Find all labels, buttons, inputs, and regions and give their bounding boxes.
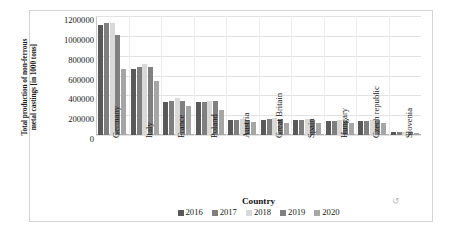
bar-2017-great-britain[interactable] — [267, 119, 272, 135]
bar-2017-spain[interactable] — [299, 120, 304, 135]
y-tick-label: 400000 — [68, 95, 94, 104]
bar-2017-germany[interactable] — [104, 23, 109, 135]
x-tick-cell: Italy — [129, 136, 162, 198]
bar-2020-germany[interactable] — [121, 69, 126, 135]
figure-container: Total production of non-ferrous metal ca… — [0, 0, 463, 250]
x-tick-label: Germany — [112, 106, 121, 138]
bar-2020-spain[interactable] — [316, 123, 321, 135]
y-tick-label: 200000 — [68, 115, 94, 124]
bar-2020-slovenia[interactable] — [414, 133, 419, 135]
bar-2016-czech-republic[interactable] — [358, 121, 363, 135]
x-tick-cell: Austria — [226, 136, 259, 198]
x-tick-cell: France — [161, 136, 194, 198]
x-tick-label: Slovenia — [405, 108, 414, 138]
y-tick-label: 1200000 — [64, 16, 94, 25]
legend-item-2019[interactable]: 2019 — [280, 208, 305, 217]
legend-label: 2016 — [186, 208, 203, 217]
x-tick-label: Hungary — [340, 108, 349, 138]
bar-2017-italy[interactable] — [137, 67, 142, 135]
x-tick-label: Poland — [210, 114, 219, 138]
x-tick-label: Great Britain — [275, 93, 284, 138]
x-axis-tick-labels: GermanyItalyFrancePolandAustriaGreat Bri… — [96, 136, 421, 198]
y-tick-label: 1000000 — [64, 36, 94, 45]
bar-2020-italy[interactable] — [154, 81, 159, 135]
legend-swatch-icon — [246, 210, 252, 216]
refresh-glyph-artifact: ↺ — [392, 196, 400, 206]
bar-2020-austria[interactable] — [251, 122, 256, 135]
legend-item-2020[interactable]: 2020 — [314, 208, 339, 217]
bar-2020-poland[interactable] — [219, 110, 224, 135]
bar-2020-hungary[interactable] — [349, 123, 354, 135]
legend-label: 2018 — [254, 208, 271, 217]
bar-2017-austria[interactable] — [234, 120, 239, 135]
legend-swatch-icon — [178, 210, 184, 216]
legend-item-2018[interactable]: 2018 — [246, 208, 271, 217]
legend-item-2017[interactable]: 2017 — [212, 208, 237, 217]
y-tick-label: 0 — [90, 135, 94, 144]
legend-item-2016[interactable]: 2016 — [178, 208, 203, 217]
x-tick-cell: Spain — [291, 136, 324, 198]
bar-2020-great-britain[interactable] — [284, 123, 289, 135]
x-tick-cell: Slovenia — [389, 136, 422, 198]
x-tick-label: Italy — [145, 122, 154, 138]
bar-2017-hungary[interactable] — [332, 121, 337, 135]
x-tick-cell: Germany — [96, 136, 129, 198]
legend-label: 2017 — [220, 208, 237, 217]
bar-2016-austria[interactable] — [228, 120, 233, 135]
y-axis-title-line1: Total production of non-ferrous — [20, 12, 29, 162]
y-axis-tick-labels: 120000010000008000006000004000002000000 — [44, 10, 94, 141]
bar-2017-france[interactable] — [169, 101, 174, 135]
x-tick-cell: Czech republic — [356, 136, 389, 198]
x-tick-cell: Great Britain — [259, 136, 292, 198]
bar-2016-great-britain[interactable] — [261, 120, 266, 135]
bar-2017-czech-republic[interactable] — [364, 121, 369, 135]
bar-2017-poland[interactable] — [202, 102, 207, 135]
bar-2016-hungary[interactable] — [326, 121, 331, 135]
bar-2016-poland[interactable] — [196, 102, 201, 135]
y-tick-label: 800000 — [68, 56, 94, 65]
bar-2016-slovenia[interactable] — [391, 132, 396, 135]
legend-label: 2019 — [288, 208, 305, 217]
bar-2016-germany[interactable] — [98, 25, 103, 135]
legend-swatch-icon — [314, 210, 320, 216]
bar-2017-slovenia[interactable] — [397, 132, 402, 135]
bar-2020-france[interactable] — [186, 106, 191, 135]
legend-swatch-icon — [212, 210, 218, 216]
bar-2016-france[interactable] — [163, 102, 168, 135]
legend-label: 2020 — [322, 208, 339, 217]
bar-2016-italy[interactable] — [131, 69, 136, 135]
y-axis-title: Total production of non-ferrous metal ca… — [20, 12, 38, 162]
y-tick-label: 600000 — [68, 76, 94, 85]
x-tick-label: Spain — [307, 118, 316, 138]
bar-group — [129, 16, 162, 135]
x-tick-cell: Poland — [194, 136, 227, 198]
y-axis-title-line2: metal castings [in 1000 tons] — [29, 12, 38, 162]
x-tick-label: France — [177, 115, 186, 138]
bar-2016-spain[interactable] — [293, 120, 298, 135]
legend: 20162017201820192020 — [96, 208, 421, 217]
x-tick-label: Czech republic — [372, 86, 381, 138]
bar-2020-czech-republic[interactable] — [381, 123, 386, 135]
x-axis-title: Country — [96, 196, 421, 206]
x-tick-cell: Hungary — [324, 136, 357, 198]
legend-swatch-icon — [280, 210, 286, 216]
x-tick-label: Austria — [242, 113, 251, 138]
